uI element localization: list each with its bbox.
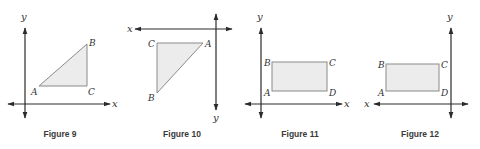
vertex-label-c: C xyxy=(329,58,336,68)
vertex-label-a: A xyxy=(263,88,271,98)
figure-caption: Figure 12 xyxy=(401,129,439,139)
vertex-label-b: B xyxy=(377,60,385,70)
vertex-label-b: B xyxy=(263,58,271,68)
figure-caption: Figure 10 xyxy=(163,129,201,139)
vertex-label-d: D xyxy=(328,88,336,98)
rectangle-abcd xyxy=(386,64,439,91)
vertex-label-a: A xyxy=(204,39,212,49)
triangle-abc xyxy=(39,44,87,86)
figures-canvas: y x B A C Figure 9 x y C A B Figure 10 y… xyxy=(0,0,480,149)
x-axis-label: x xyxy=(344,98,350,109)
y-axis-label: y xyxy=(212,112,219,123)
y-axis-label: y xyxy=(446,11,453,22)
figure-9: y x B A C Figure 9 xyxy=(8,11,118,139)
figure-12: y x B C D A Figure 12 xyxy=(364,11,468,139)
vertex-label-c: C xyxy=(88,87,95,97)
figure-10: x y C A B Figure 10 xyxy=(127,14,232,139)
vertex-label-b: B xyxy=(88,38,96,48)
figure-11: y x B C D A Figure 11 xyxy=(245,11,350,139)
x-axis-label: x xyxy=(364,98,370,109)
x-axis-label: x xyxy=(127,23,133,34)
figure-caption: Figure 9 xyxy=(43,129,76,139)
vertex-label-d: D xyxy=(440,88,448,98)
rectangle-abcd xyxy=(272,62,327,91)
figure-caption: Figure 11 xyxy=(281,129,319,139)
y-axis-label: y xyxy=(20,11,27,22)
x-axis-label: x xyxy=(112,98,118,109)
vertex-label-b: B xyxy=(147,93,155,103)
vertex-label-a: A xyxy=(377,88,385,98)
vertex-label-c: C xyxy=(148,39,155,49)
y-axis-label: y xyxy=(256,11,263,22)
triangle-abc xyxy=(157,43,203,93)
vertex-label-a: A xyxy=(30,87,38,97)
vertex-label-c: C xyxy=(441,60,448,70)
